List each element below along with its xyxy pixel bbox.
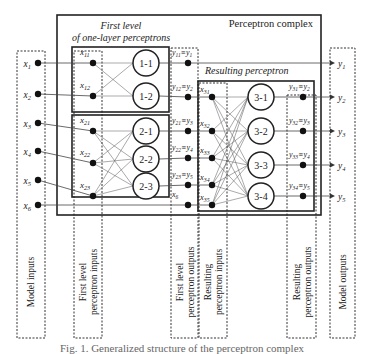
first-level-output-dot xyxy=(185,155,191,161)
resulting-input-dot xyxy=(209,128,215,134)
resulting-input-dot xyxy=(209,94,215,100)
resulting-perceptron-title: Resulting perceptron xyxy=(204,65,288,76)
connection-line xyxy=(93,163,133,186)
figure-caption: Fig. 1. Generalized structure of the per… xyxy=(60,342,304,354)
first-level-input-label: x12 xyxy=(79,80,90,91)
first-level-input-label: x22 xyxy=(79,147,90,158)
model-input-dot xyxy=(35,148,41,154)
connection-line xyxy=(212,131,248,158)
first-level-output-dot xyxy=(185,94,191,100)
model-input-dot xyxy=(35,60,41,66)
resulting-input-label: x31 xyxy=(199,84,210,95)
connection-line xyxy=(93,159,133,163)
resulting-output-dot xyxy=(300,193,306,199)
neuron-label: 1-1 xyxy=(139,58,152,69)
neuron-label: 2-1 xyxy=(139,126,152,137)
model-input-dot xyxy=(35,202,41,208)
arrow-icon xyxy=(330,61,335,66)
connection-line xyxy=(212,165,248,205)
first-level-output-dot xyxy=(185,60,191,66)
first-level-output-label: y12≡y2 xyxy=(171,82,193,92)
first-level-input-dot xyxy=(90,193,96,199)
model-inputs-column-label: Model inputs xyxy=(26,256,36,307)
arrow-icon xyxy=(330,95,335,100)
resulting-input-label: x35 xyxy=(199,192,210,203)
connection-line xyxy=(38,94,93,96)
model-input-label: x2 xyxy=(23,90,32,101)
first-level-input-dot xyxy=(90,128,96,134)
neuron-label: 2-3 xyxy=(139,181,152,192)
model-input-dot xyxy=(35,120,41,126)
arrow-icon xyxy=(330,129,335,134)
arrow-icon xyxy=(330,163,335,168)
first-level-outputs-column-label: First levelperceptron outputs xyxy=(175,246,196,317)
neuron-label: 3-2 xyxy=(254,126,267,137)
resulting-output-dot xyxy=(300,128,306,134)
neuron-label: 1-2 xyxy=(139,91,152,102)
resulting-output-dot xyxy=(300,94,306,100)
first-level-input-dot xyxy=(90,93,96,99)
connection-line xyxy=(159,185,188,186)
first-level-title: First level xyxy=(100,20,142,31)
first-level-inputs-column-label: First levelperceptron inputs xyxy=(78,249,99,316)
model-output-label: y5 xyxy=(337,192,346,203)
resulting-inputs-column-label: Resultingperceptron inputs xyxy=(203,249,224,316)
resulting-output-label: y34≡y5 xyxy=(288,181,310,191)
model-input-label: x5 xyxy=(23,176,32,187)
first-level-output-dot xyxy=(185,202,191,208)
model-output-label: y1 xyxy=(337,59,345,70)
resulting-output-dot xyxy=(300,162,306,168)
resulting-output-label: y31≡y2 xyxy=(288,82,310,92)
model-output-label: y2 xyxy=(337,93,346,104)
perceptron-complex-title: Perceptron complex xyxy=(229,18,314,29)
model-input-label: x6 xyxy=(23,201,32,212)
model-input-label: x4 xyxy=(23,147,32,158)
resulting-output-label: y32≡y3 xyxy=(288,116,310,126)
model-output-label: y4 xyxy=(337,161,346,172)
connection-line xyxy=(212,97,248,205)
connection-line xyxy=(212,97,248,196)
model-output-label: y3 xyxy=(337,127,345,138)
first-level-input-dot xyxy=(90,160,96,166)
first-level-output-dot xyxy=(185,182,191,188)
connection-line xyxy=(212,97,248,158)
resulting-input-dot xyxy=(209,202,215,208)
resulting-output-label: y33≡y4 xyxy=(288,150,310,160)
model-input-dot xyxy=(35,91,41,97)
first-level-input-label: x11 xyxy=(79,47,90,58)
first-level-input-label: x21 xyxy=(79,115,90,126)
resulting-input-label: x33 xyxy=(199,145,210,156)
connection-line xyxy=(212,131,248,165)
connection-line xyxy=(159,96,188,97)
first-level-input-label: x23 xyxy=(79,180,90,191)
first-level-input-dot xyxy=(90,60,96,66)
resulting-input-label: x32 xyxy=(199,118,210,129)
first-level-output-label: y22≡y4 xyxy=(171,143,193,153)
model-outputs-column-label: Model outputs xyxy=(338,254,348,309)
first-level-output-label: y21≡y3 xyxy=(171,116,193,126)
resulting-input-dot xyxy=(209,182,215,188)
neuron-label: 3-4 xyxy=(254,191,267,202)
connection-line xyxy=(159,158,188,159)
neuron-label: 2-2 xyxy=(139,154,152,165)
neuron-label: 3-3 xyxy=(254,160,267,171)
first-level-output-dot xyxy=(185,128,191,134)
connection-line xyxy=(212,196,248,205)
model-input-label: x1 xyxy=(23,59,31,70)
connection-line xyxy=(93,131,133,196)
first-level-output-label: y11≡y1 xyxy=(171,48,193,58)
first-level-output-label: y23≡y5 xyxy=(171,170,193,180)
connection-line xyxy=(93,131,133,159)
first-level-subtitle: of one-layer perceptrons xyxy=(72,32,170,43)
model-input-dot xyxy=(35,177,41,183)
resulting-input-label: x34 xyxy=(199,172,210,183)
first-level-output-label: x6 xyxy=(171,190,179,200)
arrow-icon xyxy=(330,194,335,199)
model-input-label: x3 xyxy=(23,119,31,130)
resulting-input-dot xyxy=(209,155,215,161)
connection-line xyxy=(93,186,133,196)
resulting-outputs-column-label: Resultingperceptron outputs xyxy=(292,246,313,317)
neuron-label: 3-1 xyxy=(254,92,267,103)
